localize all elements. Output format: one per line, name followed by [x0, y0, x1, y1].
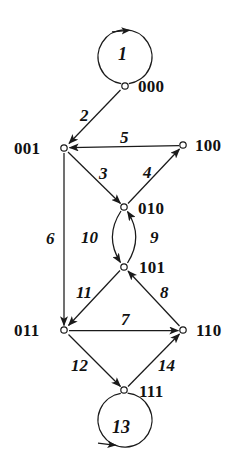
edge-label-7: 7	[121, 311, 130, 328]
edge-label-9: 9	[150, 229, 159, 246]
node-dot-010[interactable]	[121, 204, 127, 210]
node-dot-101[interactable]	[121, 264, 127, 270]
edge-label-3: 3	[99, 165, 108, 182]
edge-label-4: 4	[143, 164, 152, 181]
node-dot-110[interactable]	[180, 327, 186, 333]
node-label-101: 101	[139, 259, 165, 276]
node-dot-100[interactable]	[180, 142, 186, 148]
edge-label-6: 6	[46, 230, 55, 247]
graph-diagram: 000 001 100 010 101 011 110 111 1 2 3 4 …	[0, 0, 238, 470]
edge-9-arc	[128, 212, 136, 264]
edge-label-5: 5	[120, 129, 129, 146]
node-label-110: 110	[196, 322, 221, 339]
edge-label-12: 12	[71, 357, 88, 374]
graph-canvas	[0, 0, 238, 470]
edge-3-line	[68, 152, 121, 204]
edge-label-13: 13	[112, 418, 130, 436]
edge-2-line	[69, 90, 121, 144]
edge-1-arrowhead-path	[112, 31, 126, 32]
edge-label-1: 1	[118, 45, 127, 63]
node-label-010: 010	[138, 200, 164, 217]
node-label-111: 111	[139, 383, 164, 400]
edge-label-14: 14	[158, 357, 175, 374]
edge-13-arrowhead-path	[98, 443, 112, 445]
edge-8-line	[128, 271, 180, 326]
edge-label-2: 2	[80, 107, 89, 124]
node-label-001: 001	[14, 140, 40, 157]
edge-4-line	[128, 149, 180, 204]
edge-label-10: 10	[81, 229, 98, 246]
node-label-011: 011	[14, 322, 39, 339]
node-label-000: 000	[138, 78, 164, 95]
node-dot-111[interactable]	[121, 387, 127, 393]
edge-label-8: 8	[160, 284, 169, 301]
edge-10-arc	[112, 211, 121, 263]
edge-label-11: 11	[76, 284, 92, 301]
node-dot-001[interactable]	[61, 145, 67, 151]
node-dot-011[interactable]	[61, 327, 67, 333]
node-label-100: 100	[195, 137, 221, 154]
node-dot-000[interactable]	[122, 83, 128, 89]
